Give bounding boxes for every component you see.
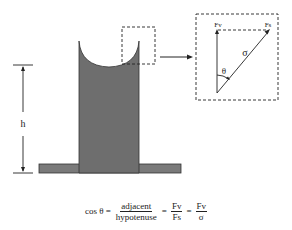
fraction-denominator: σ: [198, 212, 205, 222]
fraction-fv-fs: Fv Fs: [171, 201, 183, 222]
fraction-numerator: adjacent: [120, 201, 152, 212]
angle-label: θ: [222, 66, 226, 76]
fraction-numerator: Fv: [171, 201, 183, 212]
equals-sign: =: [186, 206, 191, 216]
fraction-denominator: hypotenuse: [115, 212, 158, 222]
formula-lhs: cos θ =: [85, 206, 111, 216]
equals-sign: =: [162, 206, 167, 216]
fraction-adjacent-hypotenuse: adjacent hypotenuse: [115, 201, 158, 222]
height-label: h: [21, 118, 26, 129]
surface-force-label: Fs: [265, 21, 272, 29]
fraction-fv-sigma: Fv σ: [196, 201, 208, 222]
vertical-force-label: Fv: [214, 21, 222, 29]
surface-tension-vector: [217, 32, 268, 93]
cosine-formula: cos θ = adjacent hypotenuse = Fv Fs = Fv…: [0, 196, 292, 226]
zoom-arrow: [160, 55, 193, 60]
fraction-denominator: Fs: [171, 212, 182, 222]
force-triangle: [215, 29, 270, 93]
fraction-numerator: Fv: [196, 201, 208, 212]
fluid-column: [79, 41, 139, 173]
tension-label: σ: [242, 47, 248, 58]
